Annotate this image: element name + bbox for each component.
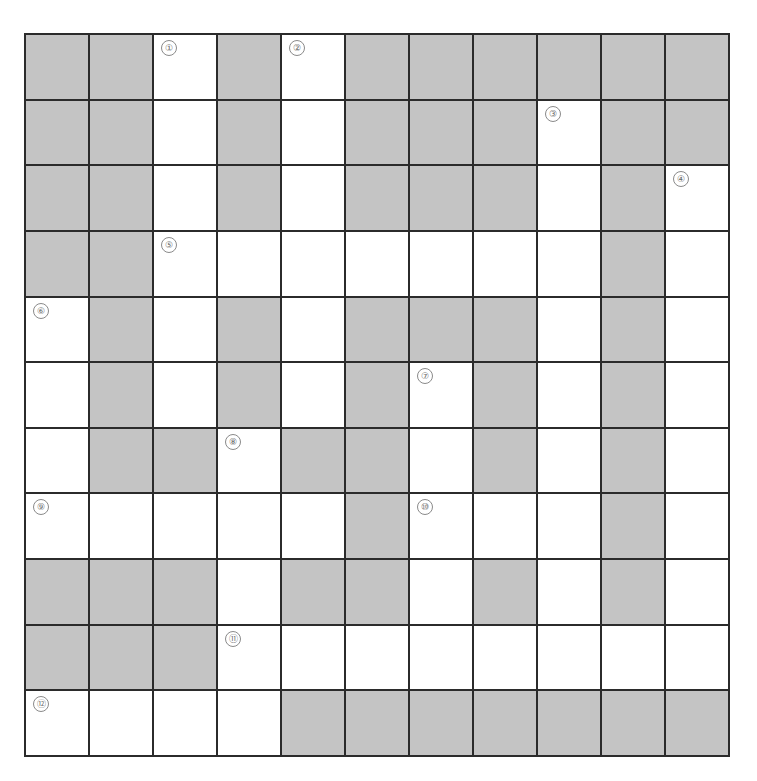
crossword-block [538,691,600,755]
crossword-cell[interactable] [666,494,728,558]
crossword-cell[interactable] [154,298,216,362]
crossword-cell[interactable] [538,429,600,493]
crossword-cell[interactable] [282,363,344,427]
crossword-cell[interactable] [666,626,728,690]
crossword-block [410,35,472,99]
crossword-block [218,363,280,427]
crossword-block [410,691,472,755]
crossword-cell[interactable] [282,298,344,362]
crossword-block [26,166,88,230]
crossword-block [90,626,152,690]
crossword-cell[interactable] [666,429,728,493]
crossword-block [474,691,536,755]
crossword-cell[interactable] [282,232,344,296]
crossword-cell[interactable] [218,494,280,558]
crossword-block [538,35,600,99]
crossword-cell[interactable] [154,101,216,165]
crossword-cell[interactable] [26,363,88,427]
crossword-cell[interactable] [538,626,600,690]
crossword-cell[interactable] [410,626,472,690]
crossword-cell[interactable]: ⑨ [26,494,88,558]
crossword-cell[interactable]: ⑤ [154,232,216,296]
crossword-cell[interactable] [282,101,344,165]
crossword-cell[interactable]: ⑫ [26,691,88,755]
crossword-block [346,363,408,427]
crossword-block [474,101,536,165]
crossword-cell[interactable]: ① [154,35,216,99]
crossword-block [346,560,408,624]
crossword-block [218,298,280,362]
crossword-cell[interactable] [154,494,216,558]
crossword-cell[interactable] [282,494,344,558]
crossword-cell[interactable] [218,691,280,755]
crossword-cell[interactable] [538,494,600,558]
crossword-cell[interactable] [90,691,152,755]
clue-number: ② [289,40,305,56]
crossword-cell[interactable] [538,363,600,427]
crossword-block [602,363,664,427]
crossword-cell[interactable] [346,232,408,296]
crossword-cell[interactable] [474,494,536,558]
crossword-cell[interactable] [346,626,408,690]
crossword-block [666,691,728,755]
crossword-block [90,363,152,427]
crossword-block [26,626,88,690]
crossword-block [346,691,408,755]
crossword-block [346,101,408,165]
crossword-cell[interactable] [410,560,472,624]
crossword-block [474,298,536,362]
crossword-cell[interactable] [90,494,152,558]
crossword-cell[interactable] [602,626,664,690]
crossword-cell[interactable] [538,232,600,296]
crossword-block [346,494,408,558]
crossword-block [218,35,280,99]
crossword-cell[interactable] [154,166,216,230]
crossword-cell[interactable] [666,298,728,362]
crossword-cell[interactable] [474,626,536,690]
crossword-cell[interactable]: ⑪ [218,626,280,690]
crossword-block [218,101,280,165]
crossword-block [154,626,216,690]
crossword-cell[interactable] [410,232,472,296]
crossword-block [90,298,152,362]
crossword-cell[interactable]: ③ [538,101,600,165]
crossword-cell[interactable] [154,363,216,427]
crossword-cell[interactable]: ② [282,35,344,99]
crossword-block [218,166,280,230]
crossword-cell[interactable] [218,560,280,624]
crossword-cell[interactable] [282,166,344,230]
crossword-block [154,429,216,493]
crossword-cell[interactable] [282,626,344,690]
crossword-cell[interactable] [26,429,88,493]
crossword-cell[interactable]: ⑥ [26,298,88,362]
crossword-cell[interactable] [666,363,728,427]
crossword-block [90,35,152,99]
crossword-cell[interactable] [538,560,600,624]
clue-number: ④ [673,171,689,187]
crossword-block [282,429,344,493]
crossword-cell[interactable] [666,232,728,296]
clue-number: ⑧ [225,434,241,450]
crossword-cell[interactable] [154,691,216,755]
crossword-block [26,35,88,99]
crossword-cell[interactable]: ⑩ [410,494,472,558]
crossword-block [666,35,728,99]
crossword-cell[interactable] [218,232,280,296]
crossword-block [602,429,664,493]
crossword-cell[interactable] [474,232,536,296]
crossword-block [602,560,664,624]
crossword-block [90,429,152,493]
clue-number: ⑨ [33,499,49,515]
crossword-cell[interactable] [666,560,728,624]
crossword-block [602,298,664,362]
crossword-cell[interactable] [538,166,600,230]
crossword-cell[interactable]: ⑧ [218,429,280,493]
crossword-cell[interactable]: ⑦ [410,363,472,427]
crossword-cell[interactable] [538,298,600,362]
crossword-cell[interactable] [410,429,472,493]
crossword-block [602,35,664,99]
crossword-cell[interactable]: ④ [666,166,728,230]
crossword-block [346,166,408,230]
crossword-block [346,429,408,493]
crossword-block [90,166,152,230]
